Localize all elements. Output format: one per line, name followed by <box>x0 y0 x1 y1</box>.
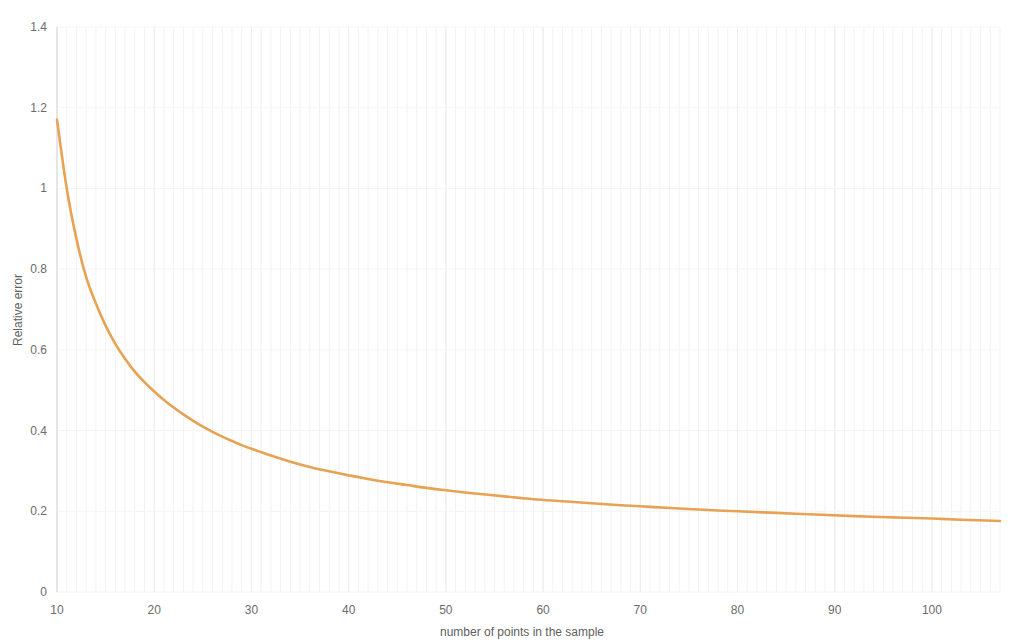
x-tick-label: 80 <box>731 603 745 617</box>
y-tick-label: 0.2 <box>30 504 47 518</box>
x-tick-label: 10 <box>50 603 64 617</box>
y-axis-title: Relative error <box>11 274 25 346</box>
y-tick-label: 0.6 <box>30 343 47 357</box>
x-tick-label: 30 <box>245 603 259 617</box>
relative-error-line-chart: 00.20.40.60.811.21.4 1020304050607080901… <box>0 0 1012 643</box>
y-tick-label: 0 <box>40 585 47 599</box>
chart-container: 00.20.40.60.811.21.4 1020304050607080901… <box>0 0 1012 643</box>
y-tick-label: 0.8 <box>30 262 47 276</box>
x-tick-label: 60 <box>536 603 550 617</box>
x-tick-label: 90 <box>828 603 842 617</box>
x-tick-label: 50 <box>439 603 453 617</box>
chart-background <box>0 0 1012 643</box>
y-tick-label: 0.4 <box>30 424 47 438</box>
x-tick-label: 20 <box>148 603 162 617</box>
y-tick-label: 1.2 <box>30 101 47 115</box>
y-tick-label: 1 <box>40 181 47 195</box>
x-axis-title: number of points in the sample <box>440 625 604 639</box>
x-tick-label: 70 <box>634 603 648 617</box>
x-tick-label: 100 <box>922 603 942 617</box>
x-tick-label: 40 <box>342 603 356 617</box>
y-tick-label: 1.4 <box>30 20 47 34</box>
